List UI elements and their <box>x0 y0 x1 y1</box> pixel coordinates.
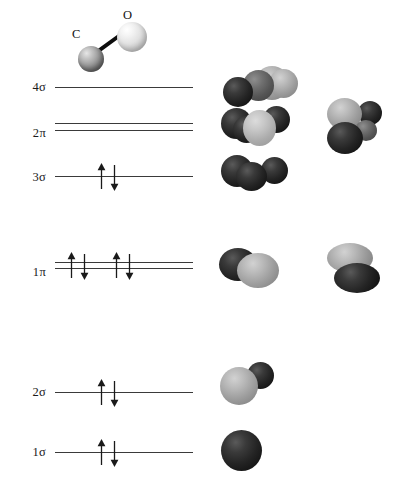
atom-label-carbon: C <box>72 27 80 42</box>
level-label-3sigma: 3σ <box>14 170 46 185</box>
electron-arrow-down <box>124 254 135 280</box>
orbital-image-1pi-b <box>325 242 402 306</box>
orbital-image-1sigma <box>219 428 305 480</box>
level-line-2sigma <box>55 392 193 393</box>
level-label-2pi: 2π <box>14 126 46 141</box>
electron-arrow-up <box>111 252 122 278</box>
orbital-lobe <box>223 77 253 107</box>
level-label-1sigma: 1σ <box>14 445 46 460</box>
level-line-4sigma <box>55 87 193 88</box>
orbital-lobe <box>221 430 262 471</box>
electron-arrow-down <box>79 254 90 280</box>
orbital-lobe <box>220 367 258 405</box>
electron-arrow-up <box>66 252 77 278</box>
electron-arrow-up <box>96 379 107 405</box>
orbital-lobe <box>243 110 276 146</box>
orbital-image-2sigma <box>219 362 305 412</box>
molecule-model-co: O C <box>60 8 170 70</box>
level-label-4sigma: 4σ <box>14 80 46 95</box>
electron-arrow-down <box>109 441 120 467</box>
orbital-lobe <box>236 162 267 191</box>
orbital-lobe <box>237 253 279 288</box>
orbital-image-1pi-a <box>219 246 305 298</box>
electron-pair-1pi-second <box>111 252 137 280</box>
orbital-image-3sigma <box>219 153 305 199</box>
electron-pair-1sigma <box>96 439 122 467</box>
electron-arrow-up <box>96 163 107 189</box>
mo-diagram-canvas: O C 4σ 2π 3σ 1π <box>0 0 402 498</box>
electron-arrow-up <box>96 439 107 465</box>
level-label-1pi: 1π <box>14 265 46 280</box>
atom-sphere-oxygen <box>117 22 147 52</box>
level-line-1sigma <box>55 452 193 453</box>
orbital-lobe <box>334 263 380 293</box>
orbital-image-2pi-b <box>325 96 402 162</box>
orbital-image-2pi-a <box>219 104 305 154</box>
level-line-2pi-lower <box>55 130 193 131</box>
level-line-3sigma <box>55 176 193 177</box>
electron-arrow-down <box>109 381 120 407</box>
level-label-2sigma: 2σ <box>14 385 46 400</box>
orbital-lobe <box>327 122 363 154</box>
atom-label-oxygen: O <box>123 8 132 23</box>
electron-pair-2sigma <box>96 379 122 407</box>
electron-pair-1pi-first <box>66 252 92 280</box>
level-line-2pi-upper <box>55 123 193 124</box>
electron-pair-3sigma <box>96 163 122 191</box>
atom-sphere-carbon <box>78 46 104 72</box>
electron-arrow-down <box>109 165 120 191</box>
